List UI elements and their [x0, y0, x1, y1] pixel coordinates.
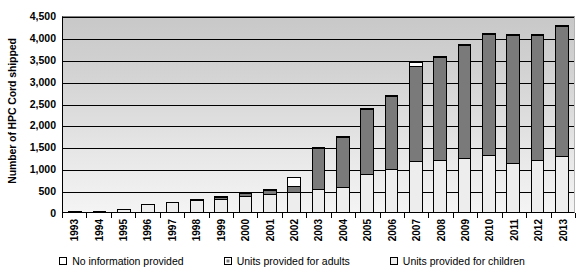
bar-2002[interactable]: [287, 177, 301, 212]
bar-slot: [428, 17, 452, 212]
x-axis-tick-mark: [209, 213, 210, 218]
bar-segment-children: [555, 156, 569, 213]
bar-2011[interactable]: [506, 34, 520, 212]
y-axis-tick-label: 0: [50, 208, 56, 219]
bar-segment-children: [409, 161, 423, 213]
bar-slot: [258, 17, 282, 212]
bar-segment-children: [482, 155, 496, 213]
x-axis-tick-label: 2010: [485, 219, 495, 241]
bar-slot: [282, 17, 306, 212]
bar-segment-children: [263, 194, 277, 213]
stacked-bar-chart: Number of HPC Cord shipped 05001,0001,50…: [0, 0, 584, 275]
x-label-slot: 2013: [550, 219, 574, 251]
bars-container: [63, 17, 574, 212]
x-label-slot: 2011: [502, 219, 526, 251]
legend-item[interactable]: No information provided: [59, 256, 183, 267]
bar-segment-adults: [385, 96, 399, 170]
x-axis-tick-mark: [331, 213, 332, 218]
y-axis-tick-labels: 05001,0001,5002,0002,5003,0003,5004,0004…: [14, 0, 60, 222]
bar-slot: [112, 17, 136, 212]
bar-segment-children: [166, 202, 180, 213]
bar-segment-adults: [312, 148, 326, 189]
x-axis-tick-label: 1998: [192, 219, 202, 241]
x-label-slot: 2000: [233, 219, 257, 251]
x-axis-tick-mark: [282, 213, 283, 218]
bar-1999[interactable]: [214, 196, 228, 213]
bar-2007[interactable]: [409, 62, 423, 212]
bar-segment-adults: [482, 34, 496, 156]
x-axis-tick-mark: [135, 213, 136, 218]
y-axis-tick-label: 500: [38, 186, 56, 197]
bar-2003[interactable]: [312, 147, 326, 212]
bar-1997[interactable]: [166, 204, 180, 212]
bar-2008[interactable]: [433, 56, 447, 212]
bar-slot: [209, 17, 233, 212]
bar-2010[interactable]: [482, 33, 496, 212]
legend-label: No information provided: [72, 256, 183, 267]
x-axis-tick-label: 2001: [266, 219, 276, 241]
x-axis-tick-label: 2013: [559, 219, 569, 241]
bar-slot: [233, 17, 257, 212]
bar-1996[interactable]: [141, 206, 155, 212]
bar-2000[interactable]: [239, 192, 253, 212]
bar-segment-children: [385, 169, 399, 213]
x-label-slot: 1997: [160, 219, 184, 251]
bar-slot: [404, 17, 428, 212]
x-label-slot: 2007: [404, 219, 428, 251]
x-axis-tick-label: 1997: [168, 219, 178, 241]
bar-segment-children: [531, 160, 545, 213]
x-label-slot: 2002: [282, 219, 306, 251]
bar-1998[interactable]: [190, 200, 204, 212]
legend-swatch-children: [390, 257, 398, 265]
x-axis-tick-mark: [184, 213, 185, 218]
bar-slot: [306, 17, 330, 212]
bar-segment-adults: [531, 35, 545, 161]
x-axis-tick-mark: [453, 213, 454, 218]
x-label-slot: 1994: [86, 219, 110, 251]
bar-segment-adults: [506, 35, 520, 163]
bar-segment-adults: [433, 57, 447, 161]
x-axis-tick-mark: [380, 213, 381, 218]
x-axis-tick-mark: [575, 213, 576, 218]
x-axis-tick-label: 1999: [217, 219, 227, 241]
bar-slot: [477, 17, 501, 212]
x-label-slot: 2006: [379, 219, 403, 251]
bar-segment-children: [239, 196, 253, 214]
x-axis-tick-mark: [502, 213, 503, 218]
y-axis-tick-label: 4,000: [30, 33, 56, 44]
legend-item[interactable]: Units provided for adults: [224, 256, 350, 267]
x-label-slot: 2003: [306, 219, 330, 251]
x-axis-tick-label: 1996: [143, 219, 153, 241]
bar-1995[interactable]: [117, 211, 131, 212]
y-axis-tick-label: 3,500: [30, 55, 56, 66]
bar-2009[interactable]: [458, 44, 472, 212]
bar-segment-adults: [555, 26, 569, 157]
x-label-slot: 2001: [257, 219, 281, 251]
bar-segment-adults: [458, 45, 472, 160]
x-axis-tick-label: 2002: [290, 219, 300, 241]
y-axis-tick-label: 4,500: [30, 11, 56, 22]
x-label-slot: 2005: [355, 219, 379, 251]
x-axis-tick-mark: [551, 213, 552, 218]
bar-2006[interactable]: [385, 95, 399, 212]
bar-slot: [525, 17, 549, 212]
x-axis-tick-mark: [86, 213, 87, 218]
bar-2004[interactable]: [336, 136, 350, 212]
x-axis-tick-label: 2009: [461, 219, 471, 241]
bar-2012[interactable]: [531, 34, 545, 212]
legend-item[interactable]: Units provided for children: [390, 256, 525, 267]
x-axis-tick-mark: [404, 213, 405, 218]
x-label-slot: 1995: [111, 219, 135, 251]
bar-segment-children: [312, 189, 326, 214]
bar-segment-children: [458, 158, 472, 213]
x-axis-tick-label: 2011: [510, 219, 520, 241]
bar-2001[interactable]: [263, 189, 277, 212]
x-axis-tick-mark: [62, 213, 63, 218]
x-label-slot: 2008: [428, 219, 452, 251]
x-axis-tick-labels: 1993199419951996199719981999200020012002…: [62, 219, 575, 251]
bar-slot: [331, 17, 355, 212]
bar-2005[interactable]: [360, 108, 374, 212]
x-axis-tick-label: 2012: [534, 219, 544, 241]
x-axis-tick-label: 2004: [339, 219, 349, 241]
bar-2013[interactable]: [555, 25, 569, 212]
